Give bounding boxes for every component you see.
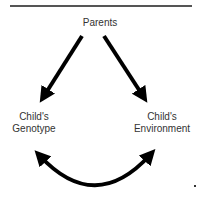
arrow-parents-to-environment xyxy=(104,36,143,96)
arrow-genotype-environment-bidirectional xyxy=(40,155,150,185)
arrow-parents-to-genotype xyxy=(44,36,82,96)
stray-dot xyxy=(194,185,196,187)
arrows-layer xyxy=(0,0,198,204)
